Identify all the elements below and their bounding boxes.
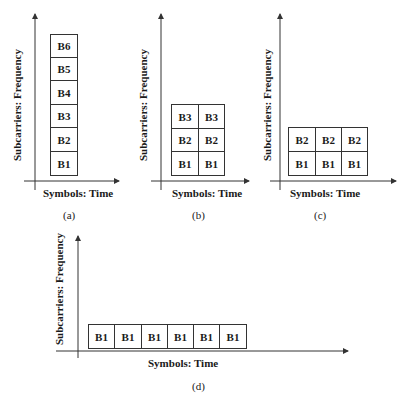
panel-d-x-axis-label: Symbols: Time [148,357,218,369]
panel-c-cell: B2 [341,127,368,152]
panel-b-cell: B1 [198,151,225,176]
panel-c-cell: B2 [315,127,342,152]
panel-c-cell: B1 [341,151,368,176]
panel-b-cell: B2 [198,128,225,152]
panel-d-cell: B1 [193,324,220,349]
panel-a-cell: B5 [50,57,78,81]
panel-a-cell: B4 [50,80,78,105]
panel-a-y-axis-label: Subcarriers: Frequency [11,49,23,161]
panel-a-cell: B3 [50,104,78,128]
panel-d-cell: B1 [219,324,247,349]
panel-c-cell: B2 [288,127,316,152]
panel-c-x-axis-label: Symbols: Time [290,187,360,199]
panel-c-caption: (c) [314,209,326,221]
panel-d-caption: (d) [192,380,205,392]
panel-b-x-axis-label: Symbols: Time [172,187,242,199]
panel-d-y-axis-label: Subcarriers: Frequency [53,233,65,345]
panel-c-y-axis-label: Subcarriers: Frequency [261,49,273,161]
panel-a-cell: B2 [50,127,78,152]
panel-c-cell: B1 [288,151,316,176]
panel-b-y-axis-label: Subcarriers: Frequency [137,49,149,161]
panel-a-cell: B6 [50,34,78,58]
panel-a-x-axis-label: Symbols: Time [43,187,113,199]
panel-a-caption: (a) [63,209,75,221]
panel-b-caption: (b) [192,209,205,221]
panel-b-cell: B3 [198,104,225,129]
panel-b-cell: B2 [171,128,199,152]
panel-d-cell: B1 [141,324,168,349]
panel-b-cell: B3 [171,104,199,129]
panel-c-cell: B1 [315,151,342,176]
panel-d-cell: B1 [88,324,115,349]
panel-d-cell: B1 [114,324,142,349]
panel-a-cell: B1 [50,151,78,176]
panel-b-cell: B1 [171,151,199,176]
panel-d-cell: B1 [167,324,194,349]
